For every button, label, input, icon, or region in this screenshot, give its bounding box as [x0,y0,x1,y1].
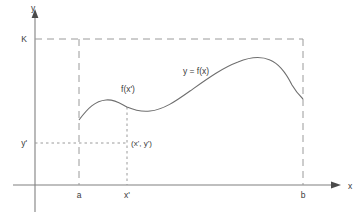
function-value-label: f(x') [121,84,135,94]
x-axis-arrowhead [331,182,341,189]
x-tick-label-a: a [77,190,82,200]
y-tick-label-k: K [21,34,27,44]
x-tick-label-b: b [301,190,306,200]
y-tick-label-y-prime: y' [21,138,27,148]
function-graph-figure: y x K y' a x' b y = f(x) f(x') (x', y') [0,0,359,221]
point-coordinate-label: (x', y') [131,139,152,148]
figure-canvas: y x K y' a x' b y = f(x) f(x') (x', y') [0,0,359,221]
x-axis-label: x [348,181,353,191]
x-tick-label-x-prime: x' [124,190,130,200]
curve-equation-label: y = f(x) [183,66,209,76]
